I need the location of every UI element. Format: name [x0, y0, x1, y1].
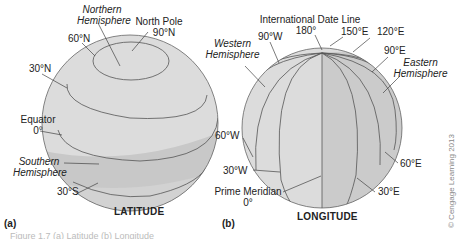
southern-hemisphere-line2: Hemisphere — [13, 167, 65, 178]
north-pole-deg: 90°N — [135, 27, 183, 38]
lat-60n-label: 60°N — [68, 33, 90, 44]
lat-30n-label: 30°N — [29, 63, 51, 74]
idl-text: International Date Line — [255, 14, 365, 25]
prime-meridian-label: Prime Meridian 0° — [213, 186, 283, 208]
eastern-hemisphere-line2: Hemisphere — [393, 68, 448, 79]
lon-30e-label: 30°E — [378, 186, 400, 197]
western-hemisphere-label: Western Hemisphere — [205, 38, 260, 60]
longitude-title: LONGITUDE — [297, 211, 358, 222]
equator-label: Equator 0° — [18, 114, 58, 136]
southern-hemisphere-label: Southern Hemisphere — [13, 156, 65, 178]
lon-30w-label: 30°W — [223, 165, 248, 176]
lat-30s-label: 30°S — [57, 186, 79, 197]
latitude-title: LATITUDE — [114, 206, 164, 217]
eastern-hemisphere-line1: Eastern — [393, 57, 448, 68]
lon-60w-label: 60°W — [215, 130, 240, 141]
northern-hemisphere-line1: Northern — [77, 4, 127, 15]
northern-hemisphere-line2: Hemisphere — [77, 15, 127, 26]
panel-b-label: (b) — [222, 218, 235, 229]
panel-a-label: (a) — [4, 218, 16, 229]
lon-150e-label: 150°E — [341, 26, 368, 37]
lon-90e-label: 90°E — [384, 45, 406, 56]
lon-90w-label: 90°W — [258, 31, 283, 42]
figure-caption: Figure 1.7 (a) Latitude (b) Longitude — [10, 231, 154, 239]
eastern-hemisphere-label: Eastern Hemisphere — [393, 57, 448, 79]
prime-meridian-text: Prime Meridian — [213, 186, 283, 197]
longitude-globe — [242, 35, 410, 210]
western-hemisphere-line1: Western — [205, 38, 260, 49]
western-hemisphere-line2: Hemisphere — [205, 49, 260, 60]
prime-meridian-deg: 0° — [213, 197, 283, 208]
north-pole-text: North Pole — [135, 16, 183, 27]
lon-60e-label: 60°E — [400, 158, 422, 169]
copyright-text: © Cengage Learning 2013 — [447, 134, 456, 228]
southern-hemisphere-line1: Southern — [13, 156, 65, 167]
north-pole-label: North Pole 90°N — [135, 16, 183, 38]
northern-hemisphere-label: Northern Hemisphere — [77, 4, 127, 26]
equator-text: Equator — [18, 114, 58, 125]
equator-deg: 0° — [18, 125, 58, 136]
lon-120e-label: 120°E — [377, 26, 404, 37]
